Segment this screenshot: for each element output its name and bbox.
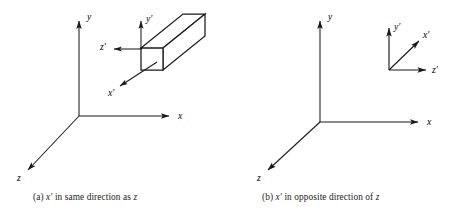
panel-a-label-yprime: y′ bbox=[145, 13, 153, 24]
caption-panel-a: (a) x′ in same direction as z bbox=[33, 192, 137, 202]
panel-a-group: y x z y′ z′ x′ bbox=[16, 11, 205, 183]
caption-b-symbol: x′ bbox=[276, 192, 282, 202]
panel-a-label-z: z bbox=[16, 172, 21, 183]
caption-a-symbol: x′ bbox=[46, 192, 52, 202]
caption-a-prefix: (a) bbox=[33, 192, 44, 202]
panel-b-axis-z-line bbox=[268, 122, 320, 170]
panel-a-axis-z-line bbox=[28, 116, 79, 170]
panel-b-label-z: z bbox=[256, 172, 261, 183]
caption-a-text: in same direction as bbox=[55, 192, 131, 202]
panel-b-axis-xprime-line bbox=[389, 41, 419, 70]
coordinate-diagram-canvas: y x z y′ z′ x′ y x z y′ z′ bbox=[0, 0, 451, 218]
caption-a-symbol-end: z bbox=[133, 192, 137, 202]
panel-b-group: y x z y′ z′ x′ bbox=[256, 11, 439, 183]
panel-b-label-y: y bbox=[327, 11, 333, 22]
caption-b-prefix: (b) bbox=[262, 192, 273, 202]
caption-b-symbol-end: z bbox=[376, 192, 380, 202]
figure-root: y x z y′ z′ x′ y x z y′ z′ bbox=[0, 0, 451, 218]
panel-a-label-x: x bbox=[177, 110, 183, 121]
caption-panel-b: (b) x′ in opposite direction of z bbox=[262, 192, 379, 202]
panel-b-label-xprime: x′ bbox=[422, 29, 430, 40]
panel-a-axis-xprime-line bbox=[120, 62, 157, 86]
panel-a-label-xprime: x′ bbox=[107, 87, 115, 98]
panel-a-label-y: y bbox=[86, 11, 92, 22]
panel-b-label-zprime: z′ bbox=[431, 64, 439, 75]
panel-b-label-x: x bbox=[426, 116, 432, 127]
beam-front-face bbox=[141, 48, 163, 70]
panel-b-label-yprime: y′ bbox=[393, 21, 401, 32]
panel-a-label-zprime: z′ bbox=[99, 41, 107, 52]
caption-b-text: in opposite direction of bbox=[284, 192, 373, 202]
